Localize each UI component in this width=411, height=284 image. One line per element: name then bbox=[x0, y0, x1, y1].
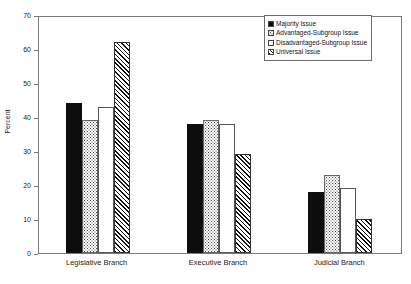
bar bbox=[219, 124, 235, 253]
bar bbox=[66, 103, 82, 253]
x-axis-category-label: Legislative Branch bbox=[66, 258, 127, 268]
legend-item-label: Disadvantaged-Subgroup Issue bbox=[276, 39, 367, 47]
legend-swatch-icon bbox=[268, 40, 274, 46]
y-axis-tick-label: 10 bbox=[23, 215, 31, 224]
y-axis-tick-label: 70 bbox=[23, 11, 31, 20]
y-axis-tick-label: 40 bbox=[23, 113, 31, 122]
bar bbox=[114, 42, 130, 253]
bar bbox=[324, 175, 340, 253]
bar bbox=[356, 219, 372, 253]
legend-item: Majority Issue bbox=[268, 19, 367, 28]
legend-swatch-icon bbox=[268, 30, 274, 36]
bar bbox=[187, 124, 203, 253]
legend-swatch-icon bbox=[268, 49, 274, 55]
bar bbox=[235, 154, 251, 253]
chart-legend: Majority IssueAdvantaged-Subgroup IssueD… bbox=[264, 15, 372, 61]
x-axis-category-label: Executive Branch bbox=[189, 258, 247, 268]
legend-item: Advantaged-Subgroup Issue bbox=[268, 29, 367, 38]
legend-item-label: Majority Issue bbox=[276, 20, 316, 28]
y-axis-title: Percent bbox=[4, 92, 11, 152]
y-axis-tick-label: 20 bbox=[23, 181, 31, 190]
legend-swatch-icon bbox=[268, 21, 274, 27]
y-axis-tick-label: 50 bbox=[23, 79, 31, 88]
y-axis-tick-mark bbox=[34, 254, 38, 255]
y-axis-tick-label: 30 bbox=[23, 147, 31, 156]
legend-item-label: Advantaged-Subgroup Issue bbox=[276, 29, 358, 37]
legend-item-label: Universal Issue bbox=[276, 48, 320, 56]
bar bbox=[82, 120, 98, 253]
legend-item: Universal Issue bbox=[268, 48, 367, 57]
bar bbox=[308, 192, 324, 253]
y-axis-tick-label: 60 bbox=[23, 45, 31, 54]
legend-item: Disadvantaged-Subgroup Issue bbox=[268, 38, 367, 47]
x-axis: Legislative BranchExecutive BranchJudici… bbox=[38, 258, 402, 274]
bar bbox=[340, 188, 356, 253]
bar bbox=[98, 107, 114, 253]
bar-chart-figure: 010203040506070 Percent Legislative Bran… bbox=[0, 0, 411, 284]
bar bbox=[203, 120, 219, 253]
y-axis-tick-label: 0 bbox=[27, 249, 31, 258]
x-axis-category-label: Judicial Branch bbox=[314, 258, 365, 268]
